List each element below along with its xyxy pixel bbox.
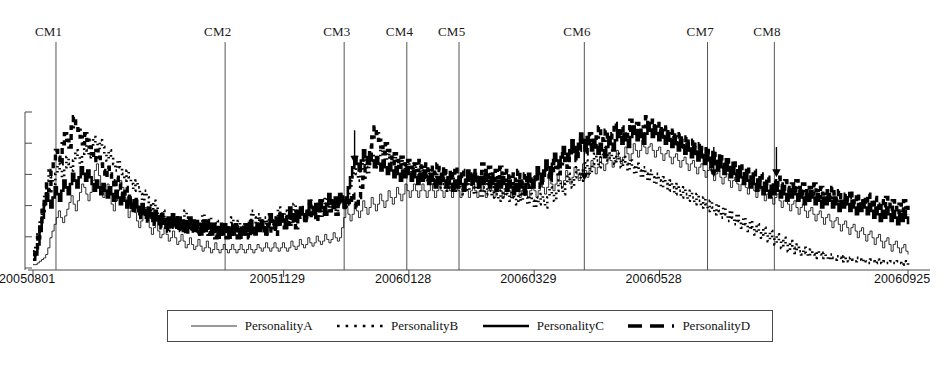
legend-swatch-fine-dotted: [336, 320, 384, 332]
cm-label-cm8: CM8: [753, 24, 780, 40]
cm-label-cm6: CM6: [563, 24, 590, 40]
legend-swatch-thin-solid: [190, 320, 238, 332]
x-tick-label-3: 20060329: [500, 272, 556, 286]
legend-label: PersonalityB: [391, 318, 458, 334]
x-tick-label-5: 20060925: [874, 272, 930, 286]
legend-entry-list: PersonalityAPersonalityBPersonalityCPers…: [168, 311, 772, 341]
cm-rule-group: [56, 42, 774, 270]
chart-figure: CM1CM2CM3CM4CM5CM6CM7CM8 200508012005112…: [0, 0, 942, 374]
x-tick-label-2: 20060128: [375, 272, 431, 286]
cm-label-cm7: CM7: [687, 24, 714, 40]
annotation-arrow-head-2: [580, 173, 588, 181]
cm-label-cm2: CM2: [204, 24, 231, 40]
cm-label-cm5: CM5: [438, 24, 465, 40]
chart-legend: PersonalityAPersonalityBPersonalityCPers…: [167, 310, 773, 342]
legend-entry-personalitya[interactable]: PersonalityA: [190, 318, 313, 334]
legend-swatch-thick-solid: [482, 320, 530, 332]
legend-label: PersonalityC: [537, 318, 604, 334]
cm-label-cm1: CM1: [35, 24, 62, 40]
x-tick-label-4: 20060528: [625, 272, 681, 286]
x-tick-label-0: 20050801: [0, 272, 55, 286]
legend-swatch-thick-dashed: [627, 320, 675, 332]
legend-label: PersonalityD: [682, 318, 750, 334]
x-tick-label-1: 20051129: [250, 272, 306, 286]
legend-label: PersonalityA: [245, 318, 313, 334]
legend-entry-personalityc[interactable]: PersonalityC: [482, 318, 604, 334]
series-group: [33, 117, 908, 265]
cm-label-cm3: CM3: [323, 24, 350, 40]
cm-label-cm4: CM4: [386, 24, 413, 40]
annotation-arrow-head-3: [710, 169, 718, 177]
legend-entry-personalityb[interactable]: PersonalityB: [336, 318, 458, 334]
legend-entry-personalityd[interactable]: PersonalityD: [627, 318, 750, 334]
